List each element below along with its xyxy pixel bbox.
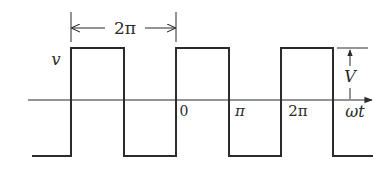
tick-label-zero: 0 bbox=[180, 103, 189, 119]
period-label: 2π bbox=[114, 18, 136, 38]
square-wave-diagram: 2π V v 0 π 2π ωt bbox=[0, 0, 388, 174]
square-waveform bbox=[32, 48, 373, 156]
tick-label-two-pi: 2π bbox=[288, 102, 308, 120]
axis-label: ωt bbox=[345, 102, 365, 121]
tick-label-pi: π bbox=[234, 102, 246, 120]
amplitude-label: V bbox=[344, 67, 357, 86]
signal-label: v bbox=[51, 50, 60, 69]
